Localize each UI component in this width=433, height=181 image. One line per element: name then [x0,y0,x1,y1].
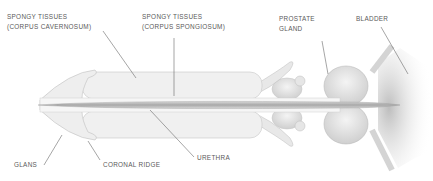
label-coronal-ridge: CORONAL RIDGE [103,160,160,170]
label-glans: GLANS [14,160,37,170]
label-corpus-spongiosum: SPONGY TISSUES (CORPUS SPONGIOSUM) [142,12,225,32]
label-prostate-gland: PROSTATE GLAND [279,14,315,34]
label-corpus-cavernosum: SPONGY TISSUES (CORPUS CAVERNOSUM) [7,12,91,32]
label-bladder: BLADDER [356,14,388,24]
label-urethra: URETHRA [197,153,230,163]
